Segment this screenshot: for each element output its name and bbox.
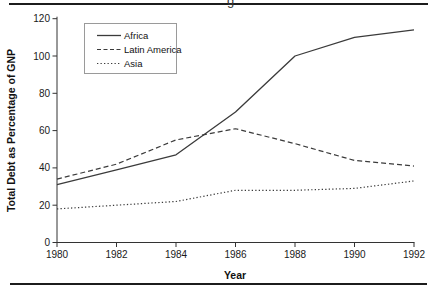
y-tick-label: 100 [33,51,50,62]
chart-figure: g 02040608010012019801982198419861988199… [0,0,440,294]
x-tick-label: 1984 [165,249,188,260]
y-tick-label: 60 [39,125,51,136]
legend-label: Latin America [124,44,182,55]
y-tick-label: 80 [39,88,51,99]
x-axis-title: Year [224,269,246,281]
legend-swatch-dashed [97,47,121,52]
chart-legend: Africa Latin America Asia [84,23,177,74]
series-line-asia [57,181,414,209]
x-tick-label: 1980 [46,249,69,260]
legend-label: Africa [124,30,148,41]
y-tick-label: 120 [33,13,50,24]
legend-item-latin-america: Latin America [97,42,176,56]
x-tick-label: 1986 [224,249,247,260]
legend-swatch-dotted [97,61,121,66]
y-tick-label: 40 [39,162,51,173]
x-tick-label: 1990 [343,249,366,260]
y-tick-label: 0 [44,237,50,248]
x-tick-label: 1992 [403,249,426,260]
legend-item-africa: Africa [97,28,176,42]
line-chart: 0204060801001201980198219841986198819901… [0,0,440,294]
y-axis-title: Total Debt as Percentage of GNP [5,49,17,212]
x-tick-label: 1988 [284,249,307,260]
legend-swatch-solid [97,33,121,38]
legend-label: Asia [124,58,142,69]
legend-item-asia: Asia [97,56,176,70]
bottom-rule [10,283,427,285]
y-tick-label: 20 [39,200,51,211]
x-tick-label: 1982 [105,249,128,260]
